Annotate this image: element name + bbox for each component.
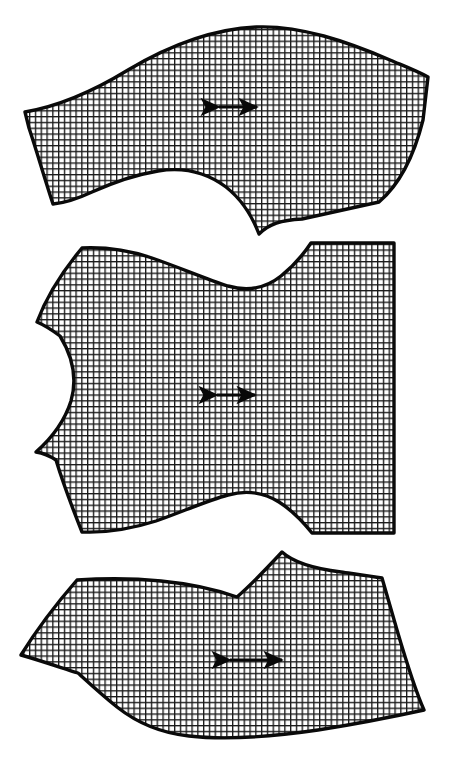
- pattern-diagram: [0, 0, 459, 777]
- pattern-figure-canvas: [0, 0, 459, 777]
- pattern-piece-middle-outline[interactable]: [36, 243, 394, 533]
- pattern-piece-middle[interactable]: [36, 243, 394, 533]
